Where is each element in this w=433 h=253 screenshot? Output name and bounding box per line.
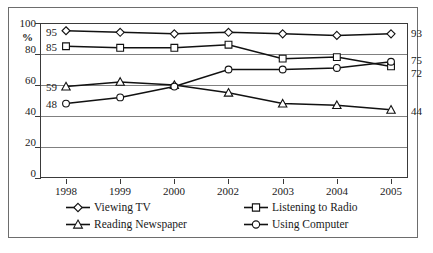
end-label-viewing-tv: 93	[411, 28, 422, 39]
triangle-marker-icon	[65, 218, 91, 231]
legend-label-reading-newspaper: Reading Newspaper	[91, 218, 187, 231]
legend-label-using-computer: Using Computer	[269, 218, 348, 231]
end-label-using-computer: 75	[411, 55, 422, 66]
square-marker-icon	[243, 201, 269, 214]
start-label-viewing-tv: 95	[46, 27, 57, 38]
chart-root: 100 % 80 60 40 20 0 1998 1999 2000 2002 …	[0, 0, 433, 253]
circle-marker-icon	[243, 218, 269, 231]
legend-item-using-computer[interactable]: Using Computer	[243, 218, 348, 231]
chart-legend: Viewing TV Listening to Radio Reading Ne…	[40, 200, 408, 234]
legend-label-viewing-tv: Viewing TV	[91, 201, 151, 214]
legend-item-reading-newspaper[interactable]: Reading Newspaper	[65, 218, 187, 231]
start-label-using-computer: 48	[46, 99, 57, 110]
legend-item-listening-to-radio[interactable]: Listening to Radio	[243, 201, 358, 214]
end-label-listening-to-radio: 72	[411, 68, 422, 79]
series-reading-newspaper	[62, 78, 395, 114]
start-label-reading-newspaper: 59	[46, 82, 57, 93]
series-listening-to-radio	[63, 41, 395, 70]
legend-item-viewing-tv[interactable]: Viewing TV	[65, 201, 151, 214]
legend-label-listening-to-radio: Listening to Radio	[269, 201, 358, 214]
start-label-listening-to-radio: 85	[46, 42, 57, 53]
series-viewing-tv	[62, 27, 395, 40]
end-label-reading-newspaper: 44	[411, 106, 422, 117]
diamond-marker-icon	[65, 201, 91, 214]
